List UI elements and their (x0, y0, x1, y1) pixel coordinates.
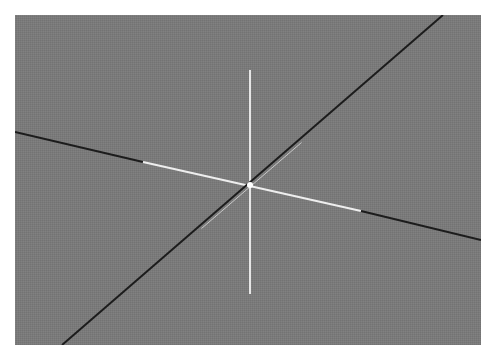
horizontal-axis-segment (15, 132, 143, 162)
axes-gizmo (0, 0, 488, 357)
origin-marker (247, 182, 253, 188)
diagonal-axis (62, 15, 443, 345)
viewport-canvas[interactable] (0, 0, 488, 357)
horizontal-axis-segment (361, 211, 481, 240)
diagonal-axis-segment (62, 15, 443, 345)
